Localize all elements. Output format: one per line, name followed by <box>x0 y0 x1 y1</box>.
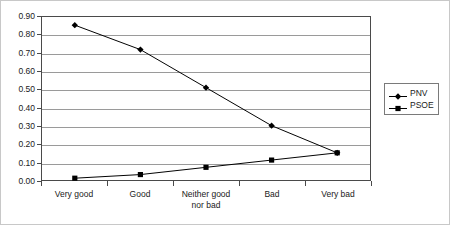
legend-entry-psoe[interactable]: PSOE <box>388 99 434 111</box>
chart-figure: 0.000.100.200.300.400.500.600.700.800.90… <box>0 0 450 225</box>
data-point-marker <box>137 46 143 52</box>
y-axis-tick-label: 0.80 <box>0 30 35 39</box>
series-psoe <box>72 150 340 180</box>
data-point-marker <box>203 84 209 90</box>
y-axis-tick-label: 0.00 <box>0 177 35 186</box>
x-axis-tick-label: Very good <box>41 189 107 200</box>
y-axis-tick-label: 0.30 <box>0 122 35 131</box>
x-axis-tick-label: Good <box>107 189 173 200</box>
data-point-marker <box>268 123 274 129</box>
series-pnv <box>72 22 341 156</box>
y-axis-tick-label: 0.90 <box>0 12 35 21</box>
data-point-marker <box>72 176 77 181</box>
x-axis-tick-mark <box>239 181 240 186</box>
y-axis-tick-label: 0.50 <box>0 85 35 94</box>
legend-entry-pnv[interactable]: PNV <box>388 87 434 99</box>
plot-area <box>41 16 371 181</box>
y-axis-tick-label: 0.40 <box>0 104 35 113</box>
legend-marker-diamond-icon <box>388 88 408 99</box>
series-layer <box>42 17 370 180</box>
data-point-marker <box>269 158 274 163</box>
x-axis-tick-label: Very bad <box>305 189 371 200</box>
x-axis-tick-mark <box>107 181 108 186</box>
data-point-marker <box>138 172 143 177</box>
x-axis-tick-label: Bad <box>239 189 305 200</box>
x-axis-tick-mark <box>41 181 42 186</box>
data-point-marker <box>203 165 208 170</box>
legend-marker-square-icon <box>388 100 408 111</box>
x-axis-tick-mark <box>371 181 372 186</box>
x-axis-tick-mark <box>305 181 306 186</box>
x-axis-tick-label: Neither good nor bad <box>173 189 239 210</box>
x-axis-tick-mark <box>173 181 174 186</box>
legend-label: PSOE <box>410 101 434 110</box>
legend-label: PNV <box>410 89 427 98</box>
y-axis-tick-label: 0.10 <box>0 159 35 168</box>
y-axis-tick-label: 0.60 <box>0 67 35 76</box>
data-point-marker <box>72 22 78 28</box>
y-axis-tick-label: 0.20 <box>0 140 35 149</box>
y-axis-tick-label: 0.70 <box>0 49 35 58</box>
data-point-marker <box>335 150 340 155</box>
chart-legend: PNVPSOE <box>384 83 439 115</box>
